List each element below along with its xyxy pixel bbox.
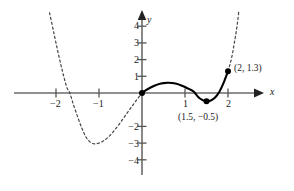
plot-canvas xyxy=(0,0,294,191)
minimum-label: (1.5, −0.5) xyxy=(178,113,218,123)
x-tick-label--2: −2 xyxy=(50,99,61,109)
y-axis-arrow-icon xyxy=(138,10,147,20)
y-tick-label-4: 4 xyxy=(131,21,139,31)
y-tick-label--3: −3 xyxy=(126,139,139,149)
graph-figure: −2 −1 1 2 4 3 2 1 −2 −3 −4 x y (2, 1.3) … xyxy=(0,0,294,191)
endpoint-label: (2, 1.3) xyxy=(234,64,262,74)
y-tick-label--2: −2 xyxy=(126,122,139,132)
x-tick-label-2: 2 xyxy=(226,99,231,109)
y-tick-label-1: 1 xyxy=(131,72,139,82)
x-tick-label--1: −1 xyxy=(93,99,104,109)
marker-minimum-point xyxy=(204,98,210,104)
curve-group xyxy=(50,12,239,144)
marker-endpoint xyxy=(225,68,231,74)
x-axis-label: x xyxy=(270,87,274,97)
x-tick-label-1: 1 xyxy=(183,99,188,109)
y-tick-label-3: 3 xyxy=(131,38,139,48)
y-axis-label: y xyxy=(147,15,151,25)
x-axis-arrow-icon xyxy=(254,89,264,98)
y-tick-label--4: −4 xyxy=(126,156,139,166)
y-tick-label-2: 2 xyxy=(131,55,139,65)
axes-group xyxy=(14,10,264,175)
marker-origin-point xyxy=(139,90,145,96)
